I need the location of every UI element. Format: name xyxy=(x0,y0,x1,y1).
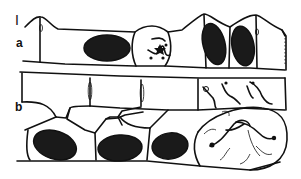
nucleus-b2 xyxy=(97,133,143,162)
panel-b-cells xyxy=(17,72,287,170)
nucleus-b3 xyxy=(150,131,189,162)
nucleus-a3 xyxy=(229,24,258,67)
dividing-chromosomes-b-large xyxy=(204,111,276,164)
cell-diagram xyxy=(0,0,301,179)
nucleus-a1 xyxy=(84,35,130,61)
nucleus-a2 xyxy=(198,21,230,67)
dividing-chromosomes-b-top xyxy=(203,81,272,108)
nucleus-b1 xyxy=(30,125,80,165)
panel-a-cells xyxy=(23,14,286,70)
dividing-chromosomes-a xyxy=(148,38,170,59)
